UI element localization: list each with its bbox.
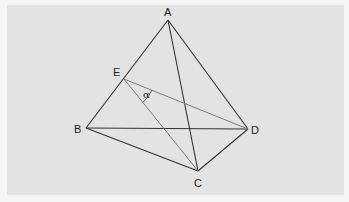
edge-cd [198, 129, 248, 171]
vertex-label-e: E [113, 66, 120, 78]
edge-ac [168, 20, 198, 171]
angle-label-alpha: α [143, 89, 150, 100]
vertex-label-a: A [164, 6, 172, 18]
vertex-label-b: B [74, 123, 81, 135]
edge-bd [86, 128, 248, 129]
vertex-label-c: C [194, 177, 202, 189]
vertex-label-d: D [251, 124, 259, 136]
tetrahedron-diagram: α A B C D E [0, 0, 349, 202]
diagram-frame: α A B C D E [0, 0, 349, 202]
vertex-labels-group: A B C D E [74, 6, 259, 189]
edge-ab [86, 20, 168, 128]
edges-group [86, 20, 248, 171]
